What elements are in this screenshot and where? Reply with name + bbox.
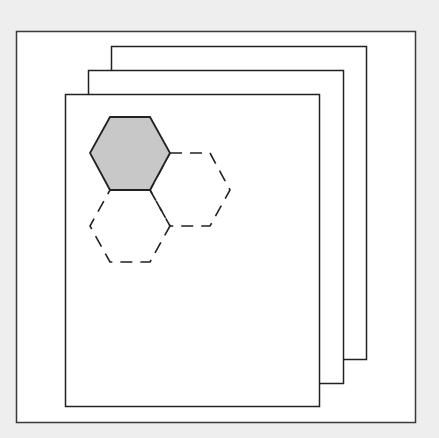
stacked-pages-illustration: [0, 0, 439, 438]
illustration-canvas: [0, 0, 439, 438]
